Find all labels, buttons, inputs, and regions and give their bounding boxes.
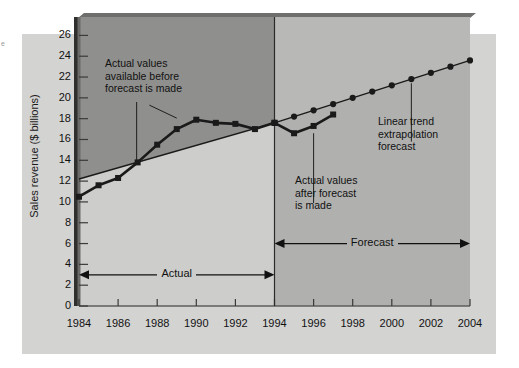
y-tick-label: 14	[47, 153, 71, 165]
x-tick-label: 1986	[98, 317, 138, 329]
chart-figure: e Sales revenue ($ billions) Actual valu…	[0, 0, 519, 368]
data-point-marker	[311, 107, 317, 113]
y-tick-label: 18	[47, 112, 71, 124]
data-point-marker	[154, 142, 160, 148]
y-tick-label: 20	[47, 91, 71, 103]
x-tick-label: 2002	[411, 317, 451, 329]
data-point-marker	[467, 57, 473, 63]
x-tick-label: 1998	[333, 317, 373, 329]
data-point-marker	[330, 101, 336, 107]
data-point-marker	[213, 120, 219, 126]
data-point-marker	[193, 117, 199, 123]
annotation-actual-before-line1: Actual values	[105, 57, 182, 70]
data-point-marker	[115, 175, 121, 181]
x-tick-label: 2004	[450, 317, 490, 329]
data-point-marker	[330, 112, 336, 118]
y-tick-label: 2	[47, 278, 71, 290]
annotation-actual-before-line3: forecast is made	[105, 82, 182, 95]
x-tick-label: 1988	[137, 317, 177, 329]
data-point-marker	[350, 95, 356, 101]
y-tick-label: 4	[47, 257, 71, 269]
y-tick-label: 22	[47, 70, 71, 82]
y-tick-label: 12	[47, 174, 71, 186]
data-point-marker	[428, 70, 434, 76]
data-point-marker	[232, 121, 238, 127]
data-point-marker	[135, 159, 141, 165]
data-point-marker	[311, 123, 317, 129]
annotation-actual-after-line3: is made	[295, 199, 357, 212]
annotation-linear-trend-line3: forecast	[378, 140, 438, 153]
data-point-marker	[96, 182, 102, 188]
y-tick-label: 6	[47, 237, 71, 249]
data-point-marker	[369, 89, 375, 95]
data-point-marker	[76, 194, 82, 200]
x-tick-label: 2000	[372, 317, 412, 329]
y-tick-label: 8	[47, 216, 71, 228]
annotation-actual-after-line1: Actual values	[295, 174, 357, 187]
forecast-span-label: Forecast	[347, 236, 398, 248]
annotation-actual-before: Actual values available before forecast …	[105, 57, 182, 95]
data-point-marker	[174, 126, 180, 132]
data-point-marker	[252, 126, 258, 132]
y-tick-label: 24	[47, 49, 71, 61]
annotation-actual-after-line2: after forecast	[295, 187, 357, 200]
annotation-actual-after: Actual values after forecast is made	[295, 174, 357, 212]
y-tick-label: 0	[47, 299, 71, 311]
data-point-marker	[272, 120, 278, 126]
x-tick-label: 1996	[294, 317, 334, 329]
actual-span-label: Actual	[157, 267, 196, 279]
annotation-actual-before-line2: available before	[105, 70, 182, 83]
data-point-marker	[408, 76, 414, 82]
data-point-marker	[291, 130, 297, 136]
data-point-marker	[447, 64, 453, 70]
y-tick-label: 26	[47, 28, 71, 40]
data-point-marker	[389, 82, 395, 88]
plot-canvas	[0, 0, 519, 368]
y-tick-label: 16	[47, 132, 71, 144]
x-tick-label: 1984	[59, 317, 99, 329]
y-tick-label: 10	[47, 195, 71, 207]
annotation-linear-trend-line2: extrapolation	[378, 128, 438, 141]
annotation-linear-trend-line1: Linear trend	[378, 115, 438, 128]
x-tick-label: 1994	[255, 317, 295, 329]
x-tick-label: 1990	[176, 317, 216, 329]
data-point-marker	[291, 113, 297, 119]
x-tick-label: 1992	[215, 317, 255, 329]
annotation-linear-trend: Linear trend extrapolation forecast	[378, 115, 438, 153]
